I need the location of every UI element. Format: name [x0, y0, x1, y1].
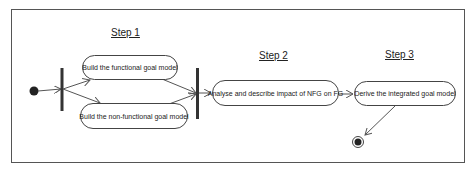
activity-build-non-functional-goal-model[interactable]: Build the non-functional goal model [80, 103, 188, 129]
step-3-label: Step 3 [385, 49, 414, 60]
step-1-label: Step 1 [111, 27, 140, 38]
activity-label: Derive the integrated goal model [354, 90, 455, 97]
final-node [353, 137, 364, 148]
activity-build-functional-goal-model[interactable]: Build the functional goal model [82, 55, 178, 80]
step-2-label: Step 2 [259, 50, 288, 61]
activity-derive-integrated-goal-model[interactable]: Derive the integrated goal model [354, 81, 456, 106]
activity-label: Build the functional goal model [82, 64, 177, 71]
initial-node [30, 87, 39, 96]
activity-label: Build the non-functional goal model [79, 113, 188, 120]
join-bar [196, 68, 199, 119]
activity-label: Analyse and describe impact of NFG on FG [208, 90, 343, 97]
activity-analyse-impact-nfg-on-fg[interactable]: Analyse and describe impact of NFG on FG [212, 80, 339, 106]
